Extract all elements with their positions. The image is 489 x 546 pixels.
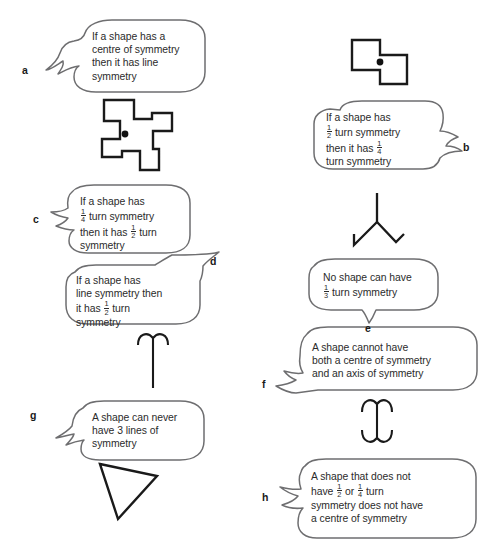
fraction-one-quarter: 14 xyxy=(377,140,382,155)
fraction-one-half: 12 xyxy=(327,124,332,139)
fraction-one-third: 13 xyxy=(324,284,329,299)
fraction-one-half: 12 xyxy=(337,483,342,498)
fraction-one-quarter: 14 xyxy=(81,208,86,223)
bubble-a-text: If a shape has a centre of symmetry then… xyxy=(92,30,204,83)
bubble-label-f: f xyxy=(262,378,266,390)
fraction-one-half: 12 xyxy=(104,300,109,315)
bubble-label-c: c xyxy=(33,213,39,225)
bubble-label-d: d xyxy=(210,255,216,267)
bubble-label-g: g xyxy=(30,409,36,421)
fraction-one-half: 12 xyxy=(131,224,136,239)
bubble-d-text: If a shape hasline symmetry thenit has 1… xyxy=(76,274,196,329)
bubble-g-text: A shape can never have 3 lines of symmet… xyxy=(92,411,207,451)
bubble-label-b: b xyxy=(463,141,469,153)
bubble-h-text: A shape that does nothave 12 or 14 turns… xyxy=(311,470,463,525)
bubble-e-text: No shape can have13 turn symmetry xyxy=(323,271,443,300)
bubble-c-text: If a shape has14 turn symmetrythen it ha… xyxy=(80,195,195,252)
bubble-label-h: h xyxy=(262,491,268,503)
z-hexomino-centre-dot xyxy=(377,59,384,66)
bubble-label-e: e xyxy=(365,322,371,334)
pinwheel-centre-dot xyxy=(122,131,129,138)
fraction-one-quarter: 14 xyxy=(358,483,363,498)
bubble-f-text: A shape cannot have both a centre of sym… xyxy=(312,341,477,381)
bubble-label-a: a xyxy=(22,64,28,76)
bubble-b-text: If a shape has12 turn symmetrythen it ha… xyxy=(326,111,438,168)
